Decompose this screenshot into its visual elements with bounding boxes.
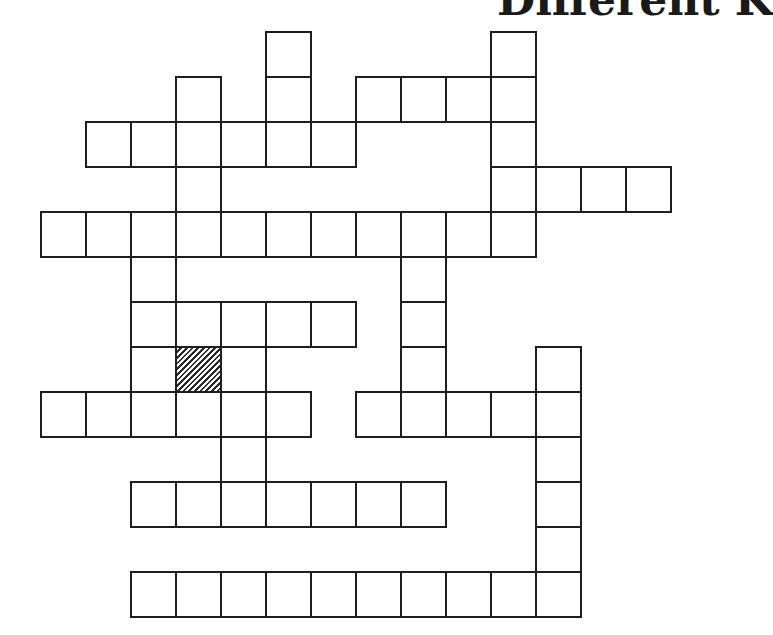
crossword-cell[interactable] — [310, 571, 357, 618]
crossword-cell-blocked — [175, 346, 222, 393]
crossword-cell[interactable] — [130, 256, 177, 303]
crossword-cell[interactable] — [580, 166, 627, 213]
crossword-cell[interactable] — [175, 121, 222, 168]
crossword-cell[interactable] — [220, 436, 267, 483]
crossword-cell[interactable] — [265, 571, 312, 618]
crossword-cell[interactable] — [535, 526, 582, 573]
crossword-cell[interactable] — [130, 571, 177, 618]
crossword-cell[interactable] — [130, 121, 177, 168]
crossword-cell[interactable] — [490, 391, 537, 438]
crossword-cell[interactable] — [310, 121, 357, 168]
crossword-cell[interactable] — [175, 211, 222, 258]
crossword-cell[interactable] — [175, 76, 222, 123]
crossword-cell[interactable] — [535, 166, 582, 213]
crossword-cell[interactable] — [265, 301, 312, 348]
crossword-cell[interactable] — [400, 571, 447, 618]
crossword-cell[interactable] — [130, 301, 177, 348]
crossword-cell[interactable] — [445, 76, 492, 123]
crossword-cell[interactable] — [220, 571, 267, 618]
crossword-cell[interactable] — [625, 166, 672, 213]
crossword-cell[interactable] — [445, 211, 492, 258]
crossword-cell[interactable] — [175, 166, 222, 213]
crossword-cell[interactable] — [220, 121, 267, 168]
crossword-cell[interactable] — [130, 391, 177, 438]
crossword-cell[interactable] — [220, 391, 267, 438]
crossword-cell[interactable] — [535, 481, 582, 528]
crossword-cell[interactable] — [220, 211, 267, 258]
crossword-cell[interactable] — [490, 31, 537, 78]
crossword-cell[interactable] — [490, 121, 537, 168]
crossword-cell[interactable] — [400, 211, 447, 258]
crossword-cell[interactable] — [535, 391, 582, 438]
crossword-cell[interactable] — [130, 211, 177, 258]
crossword-cell[interactable] — [310, 211, 357, 258]
crossword-cell[interactable] — [310, 481, 357, 528]
crossword-cell[interactable] — [175, 481, 222, 528]
crossword-cell[interactable] — [400, 481, 447, 528]
crossword-cell[interactable] — [220, 346, 267, 393]
crossword-cell[interactable] — [490, 211, 537, 258]
crossword-cell[interactable] — [265, 391, 312, 438]
crossword-cell[interactable] — [220, 481, 267, 528]
crossword-cell[interactable] — [265, 211, 312, 258]
crossword-cell[interactable] — [175, 571, 222, 618]
crossword-cell[interactable] — [355, 481, 402, 528]
crossword-cell[interactable] — [355, 211, 402, 258]
crossword-cell[interactable] — [265, 481, 312, 528]
crossword-cell[interactable] — [130, 346, 177, 393]
crossword-cell[interactable] — [400, 256, 447, 303]
crossword-cell[interactable] — [175, 301, 222, 348]
crossword-cell[interactable] — [400, 76, 447, 123]
crossword-cell[interactable] — [535, 571, 582, 618]
crossword-cell[interactable] — [535, 346, 582, 393]
crossword-cell[interactable] — [445, 391, 492, 438]
crossword-cell[interactable] — [85, 211, 132, 258]
crossword-cell[interactable] — [265, 31, 312, 78]
crossword-cell[interactable] — [400, 301, 447, 348]
crossword-cell[interactable] — [355, 571, 402, 618]
crossword-cell[interactable] — [535, 436, 582, 483]
crossword-cell[interactable] — [40, 391, 87, 438]
crossword-cell[interactable] — [445, 571, 492, 618]
crossword-cell[interactable] — [490, 571, 537, 618]
crossword-cell[interactable] — [490, 76, 537, 123]
crossword-cell[interactable] — [265, 121, 312, 168]
crossword-cell[interactable] — [175, 391, 222, 438]
crossword-cell[interactable] — [400, 391, 447, 438]
crossword-cell[interactable] — [355, 391, 402, 438]
crossword-cell[interactable] — [130, 481, 177, 528]
crossword-cell[interactable] — [355, 76, 402, 123]
crossword-cell[interactable] — [40, 211, 87, 258]
crossword-cell[interactable] — [85, 121, 132, 168]
crossword-cell[interactable] — [265, 76, 312, 123]
crossword-cell[interactable] — [490, 166, 537, 213]
crossword-cell[interactable] — [220, 301, 267, 348]
crossword-cell[interactable] — [310, 301, 357, 348]
crossword-cell[interactable] — [85, 391, 132, 438]
crossword-cell[interactable] — [400, 346, 447, 393]
